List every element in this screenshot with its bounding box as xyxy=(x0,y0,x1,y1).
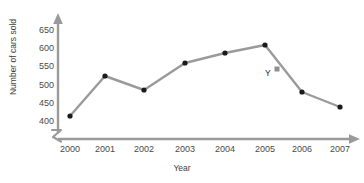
y-axis xyxy=(53,13,63,133)
line-chart: 650 600 550 500 450 400 2000 2001 2002 2… xyxy=(0,0,364,183)
x-tick-2004: 2004 xyxy=(203,144,247,154)
y-tick-450: 450 xyxy=(28,98,54,108)
data-line xyxy=(70,45,340,116)
y-tick-500: 500 xyxy=(28,80,54,90)
x-tick-2001: 2001 xyxy=(83,144,127,154)
y-tick-400: 400 xyxy=(28,116,54,126)
chart-canvas xyxy=(0,0,364,183)
x-tick-2002: 2002 xyxy=(122,144,166,154)
x-tick-2007: 2007 xyxy=(318,144,362,154)
x-axis xyxy=(58,134,360,144)
data-markers xyxy=(67,42,342,118)
annotated-point-y-marker xyxy=(275,67,280,72)
y-tick-650: 650 xyxy=(28,25,54,35)
annotated-point-y-label: Y xyxy=(265,68,271,78)
y-axis-title: Number of cars sold xyxy=(8,10,18,104)
x-tick-2003: 2003 xyxy=(163,144,207,154)
y-tick-600: 600 xyxy=(28,43,54,53)
x-axis-title: Year xyxy=(0,163,364,173)
y-tick-550: 550 xyxy=(28,61,54,71)
axis-break-icon xyxy=(52,130,61,142)
